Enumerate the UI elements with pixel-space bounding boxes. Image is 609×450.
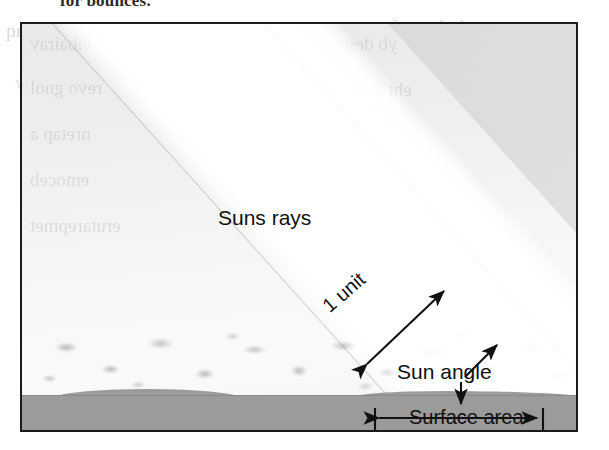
cut-off-body-text: for bounces. [60, 0, 280, 7]
label-sun-angle: Sun angle [397, 360, 492, 384]
label-suns-rays: Suns rays [218, 206, 311, 230]
label-surface-area: Surface area [409, 406, 524, 429]
